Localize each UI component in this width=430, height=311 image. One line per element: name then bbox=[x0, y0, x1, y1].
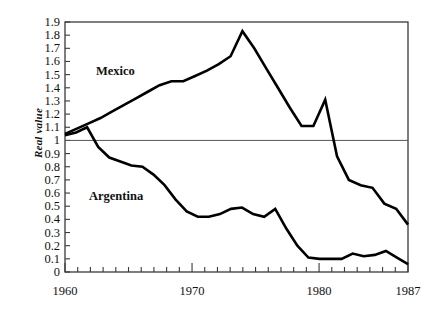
plot-area bbox=[0, 0, 430, 311]
series-label-argentina: Argentina bbox=[89, 189, 143, 204]
x-tick-label: 1960 bbox=[53, 284, 78, 299]
series-label-mexico: Mexico bbox=[96, 64, 135, 79]
y-axis-ticks bbox=[65, 22, 70, 272]
x-tick-label: 1970 bbox=[180, 284, 205, 299]
plot-frame bbox=[65, 22, 408, 272]
chart-figure: Real value 1.91.81.71.61.51.41.31.21.110… bbox=[0, 0, 430, 311]
x-tick-label: 1980 bbox=[307, 284, 332, 299]
x-tick-label: 1987 bbox=[396, 284, 421, 299]
x-axis-ticks bbox=[65, 263, 408, 272]
